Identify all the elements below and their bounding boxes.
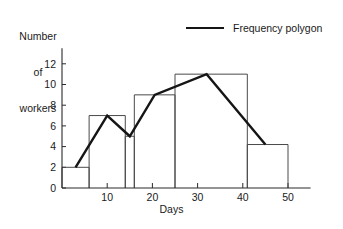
y-tick-label-group: 024681012 [44,58,56,194]
y-tick-label: 6 [50,120,56,132]
y-tick-label: 0 [50,182,56,194]
y-tick-label: 4 [50,140,56,152]
y-tick-label: 8 [50,99,56,111]
histogram-bar [62,167,89,188]
x-axis-title: Days [0,203,343,215]
histogram-bar [247,145,288,188]
x-tick-label: 40 [237,191,249,203]
frequency-polygon-line [76,74,266,167]
histogram-bar [125,136,134,188]
plot-area: 024681012 1020304050 [0,0,343,229]
y-tick-label: 12 [44,58,56,70]
x-tick-label: 30 [192,191,204,203]
y-tick-label: 2 [50,161,56,173]
x-tick-label-group: 1020304050 [101,191,294,203]
histogram-bar [134,95,175,188]
frequency-polygon-histogram-chart: Number of workers Frequency polygon 0246… [0,0,343,229]
x-tick-label: 50 [282,191,294,203]
y-tick-label: 10 [44,78,56,90]
x-tick-label: 20 [147,191,159,203]
x-tick-label: 10 [101,191,113,203]
histogram-bar [175,74,247,188]
